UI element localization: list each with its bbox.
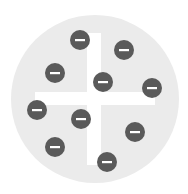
minus-sign-icon — [119, 49, 129, 51]
minus-sign-icon — [32, 109, 42, 111]
minus-sign-icon — [130, 131, 140, 133]
minus-sign-icon — [75, 39, 85, 41]
minus-sign-icon — [76, 118, 86, 120]
minus-sign-icon — [98, 81, 108, 83]
electron — [71, 109, 91, 129]
electron — [114, 40, 134, 60]
minus-sign-icon — [50, 72, 60, 74]
electron — [97, 152, 117, 172]
electron — [125, 122, 145, 142]
electron — [45, 137, 65, 157]
electron — [142, 78, 162, 98]
minus-sign-icon — [102, 161, 112, 163]
electron — [27, 100, 47, 120]
minus-sign-icon — [50, 146, 60, 148]
electron — [45, 63, 65, 83]
minus-sign-icon — [147, 87, 157, 89]
plum-pudding-atom-diagram — [0, 0, 188, 194]
plus-sign-horizontal-bar — [35, 92, 155, 105]
electron — [70, 30, 90, 50]
electron — [93, 72, 113, 92]
